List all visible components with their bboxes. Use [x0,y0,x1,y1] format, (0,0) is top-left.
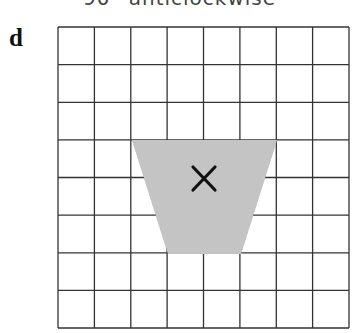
grid-diagram [0,0,359,333]
